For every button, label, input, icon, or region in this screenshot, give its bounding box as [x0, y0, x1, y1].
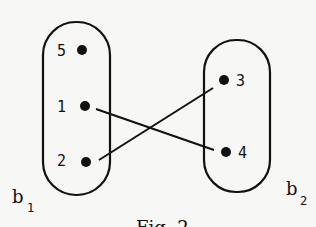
node-2 [81, 157, 91, 167]
node-1 [80, 101, 90, 111]
set-label-b1-subscript: 1 [27, 201, 34, 215]
node-label-4: 4 [238, 144, 247, 162]
edge-2-3 [99, 88, 213, 160]
set-label-b1: b [12, 186, 24, 207]
set-b2-capsule [204, 40, 270, 192]
bipartite-diagram: 5 1 2 3 4 b 1 b 2 Fig. 2 [0, 0, 316, 227]
set-b1-capsule [43, 22, 110, 195]
node-5 [77, 45, 87, 55]
node-label-5: 5 [57, 42, 66, 60]
edge-1-4 [96, 109, 214, 150]
figure-caption: Fig. 2 [136, 217, 189, 227]
node-label-3: 3 [236, 72, 245, 90]
set-label-b2: b [286, 178, 298, 199]
node-4 [221, 147, 231, 157]
node-label-1: 1 [57, 98, 66, 116]
node-3 [219, 75, 229, 85]
node-label-2: 2 [57, 152, 66, 170]
set-label-b2-subscript: 2 [300, 194, 307, 208]
